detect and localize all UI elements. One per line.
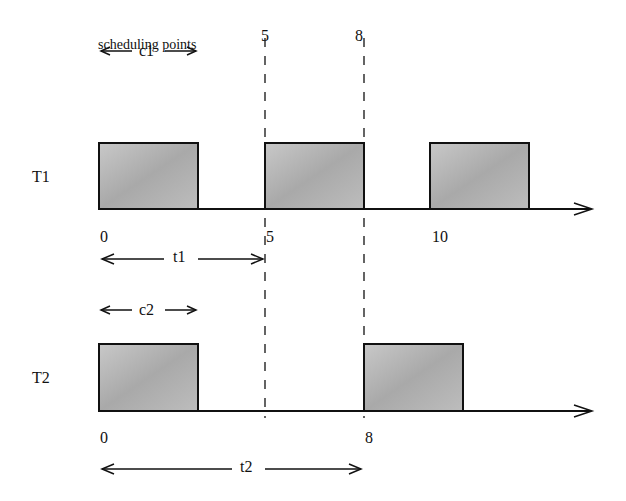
period-label-t1: t1 [173, 249, 185, 265]
t1-tick-10: 10 [432, 229, 448, 245]
t2-burst-1 [99, 344, 198, 411]
task-label-t2: T2 [32, 370, 50, 386]
compute-label-c1: c1 [139, 43, 154, 59]
t1-burst-3 [430, 143, 529, 209]
t1-tick-0: 0 [100, 229, 108, 245]
t1-burst-2 [265, 143, 364, 209]
task-label-t1: T1 [32, 169, 50, 185]
compute-label-c2: c2 [139, 302, 154, 318]
t2-tick-8: 8 [365, 430, 373, 446]
scheduling-point-5: 5 [261, 28, 269, 44]
t1-burst-1 [99, 143, 198, 209]
t2-burst-2 [364, 344, 463, 411]
timeline-diagram [0, 0, 626, 501]
t2-period-arrows [102, 464, 361, 474]
t2-tick-0: 0 [100, 430, 108, 446]
period-label-t2: t2 [240, 459, 252, 475]
scheduling-point-8: 8 [355, 28, 363, 44]
t1-tick-5: 5 [266, 229, 274, 245]
